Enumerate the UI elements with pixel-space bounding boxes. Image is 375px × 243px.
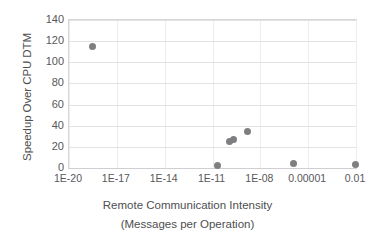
horizontal-gridline — [69, 105, 356, 106]
y-axis-tick-label: 60 — [30, 99, 64, 109]
vertical-gridline — [308, 20, 309, 168]
horizontal-gridline — [69, 20, 356, 21]
horizontal-gridline — [69, 147, 356, 148]
vertical-gridline — [165, 20, 166, 168]
y-axis-tick-labels: 020406080100120140 — [30, 14, 64, 169]
plot-area — [68, 19, 357, 169]
horizontal-gridline — [69, 168, 356, 169]
y-axis-tick-label: 120 — [30, 35, 64, 45]
data-point — [230, 136, 237, 143]
horizontal-gridline — [69, 126, 356, 127]
y-axis-tick-label: 0 — [30, 162, 64, 172]
data-point — [290, 160, 297, 167]
x-axis-title: Remote Communication Intensity (Messages… — [0, 196, 375, 234]
x-axis-tick-label: 0.01 — [325, 172, 375, 184]
horizontal-gridline — [69, 62, 356, 63]
y-axis-tick-label: 140 — [30, 14, 64, 24]
data-point — [244, 128, 251, 135]
x-axis-title-line2: (Messages per Operation) — [0, 215, 375, 234]
x-axis-tick-labels: 1E-201E-171E-141E-111E-080.000010.01 — [68, 172, 357, 186]
y-axis-tick-label: 40 — [30, 120, 64, 130]
data-point — [89, 43, 96, 50]
horizontal-gridline — [69, 83, 356, 84]
vertical-gridline — [69, 20, 70, 168]
x-axis-title-line1: Remote Communication Intensity — [103, 199, 272, 211]
y-axis-tick-label: 100 — [30, 56, 64, 66]
vertical-gridline — [213, 20, 214, 168]
y-axis-tick-label: 80 — [30, 77, 64, 87]
vertical-gridline — [260, 20, 261, 168]
data-point — [352, 161, 359, 168]
y-axis-tick-label: 20 — [30, 141, 64, 151]
vertical-gridline — [356, 20, 357, 168]
horizontal-gridline — [69, 41, 356, 42]
scatter-chart: Speedup Over CPU DTM 020406080100120140 … — [0, 0, 375, 243]
vertical-gridline — [117, 20, 118, 168]
